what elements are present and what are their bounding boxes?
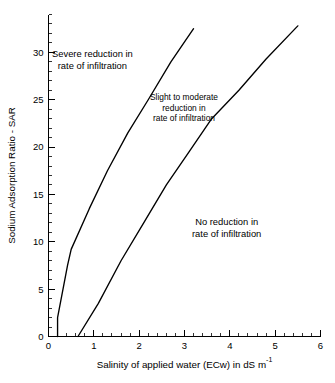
annotation-severe-line-2: rate of infiltration: [52, 60, 133, 72]
annotation-none-line-1: No reduction in: [192, 216, 261, 228]
x-tick-label: 3: [182, 340, 187, 351]
annotation-slight-line-3: rate of infiltration: [150, 113, 218, 124]
annotation-slight-line-2: reduction in: [150, 103, 218, 114]
boundary-curve-1: [58, 29, 194, 337]
annotation-slight-line-1: Slight to moderate: [150, 92, 218, 103]
annotation-severe-line-1: Severe reduction in: [52, 48, 133, 60]
y-tick-label: 15: [33, 189, 44, 200]
x-tick-label: 6: [318, 340, 323, 351]
annotation-severe-reduction: Severe reduction in rate of infiltration: [52, 48, 133, 72]
y-tick-label: 0: [38, 331, 43, 342]
x-axis-label: Salinity of applied water (ECw) in dS m-…: [97, 355, 273, 370]
y-axis-label: Sodium Adsorption Ratio - SAR: [6, 107, 17, 244]
y-tick-label: 20: [33, 141, 44, 152]
annotation-slight-to-moderate-reduction: Slight to moderate reduction in rate of …: [150, 92, 218, 124]
x-tick-label: 0: [46, 340, 51, 351]
y-tick-label: 25: [33, 94, 44, 105]
y-tick-label: 30: [33, 47, 44, 58]
x-tick-label: 2: [137, 340, 142, 351]
chart-canvas: 0123456051015202530Salinity of applied w…: [0, 0, 335, 383]
y-tick-label: 5: [38, 284, 43, 295]
infiltration-rate-chart: 0123456051015202530Salinity of applied w…: [0, 0, 335, 383]
x-tick-label: 5: [273, 340, 278, 351]
boundary-curve-2: [78, 26, 298, 337]
x-tick-label: 1: [91, 340, 96, 351]
annotation-none-line-2: rate of infiltration: [192, 228, 261, 240]
y-tick-label: 10: [33, 236, 44, 247]
x-tick-label: 4: [227, 340, 232, 351]
annotation-no-reduction: No reduction in rate of infiltration: [192, 216, 261, 240]
